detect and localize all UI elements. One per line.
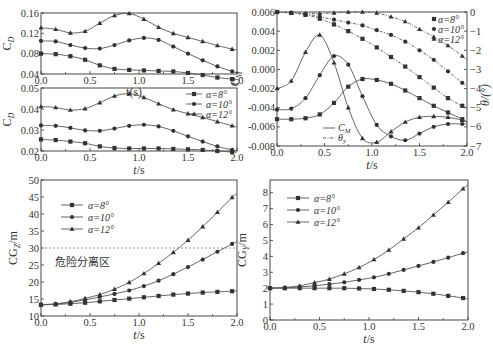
data-point-marker: [112, 298, 116, 302]
data-point-marker: [387, 288, 391, 292]
data-point-marker: [460, 53, 465, 57]
data-point-marker: [346, 20, 350, 24]
legend-label: α=10°: [314, 205, 340, 216]
data-point-marker: [432, 125, 436, 129]
y-axis-label: CGZ/m: [6, 230, 22, 264]
legend-label: α=12°: [88, 224, 114, 235]
y-right-tick-label: −3: [470, 64, 481, 75]
data-point-marker: [186, 71, 190, 75]
data-point-marker: [389, 134, 393, 138]
x-tick-label: 1.0: [365, 147, 378, 158]
data-point-marker: [431, 292, 435, 296]
data-point-marker: [186, 291, 190, 295]
y-right-tick-label: −1: [470, 26, 481, 37]
y-axis-label: CD: [0, 36, 16, 50]
y-tick-label: 0.02: [21, 146, 39, 157]
legend-marker-icon: [192, 92, 196, 96]
y-tick-label: 1: [263, 299, 268, 310]
data-point-marker: [54, 52, 58, 56]
y-tick-label: 7: [263, 203, 268, 214]
y-tick-label: -0.004: [248, 102, 276, 113]
data-point-marker: [387, 272, 391, 276]
y-tick-label: 3: [263, 267, 268, 278]
legend-label: α=8°: [314, 193, 335, 204]
data-point-marker: [289, 107, 293, 111]
data-point-marker: [446, 294, 450, 298]
data-point-marker: [389, 33, 393, 37]
data-point-marker: [446, 256, 450, 260]
data-point-marker: [275, 117, 279, 121]
y-tick-label: 0.05: [21, 83, 39, 94]
data-point-marker: [386, 247, 391, 251]
data-point-marker: [127, 68, 131, 72]
y-tick-label: 15: [29, 294, 40, 305]
data-point-marker: [142, 284, 146, 288]
chart-cd-bottom: 0.00.51.01.52.00.020.030.040.05CDt/sα=8°…: [0, 83, 244, 178]
data-point-marker: [346, 63, 350, 67]
data-point-marker: [303, 50, 308, 54]
x-tick-label: 1.0: [362, 321, 375, 332]
data-point-marker: [127, 280, 132, 284]
data-point-marker: [289, 117, 293, 121]
data-point-marker: [171, 272, 175, 276]
x-tick-label: 1.5: [412, 321, 425, 332]
x-tick-label: 0.5: [83, 317, 96, 328]
legend-marker-icon: [70, 215, 74, 219]
data-point-marker: [402, 289, 406, 293]
y-tick-label: 45: [29, 192, 40, 203]
data-point-marker: [432, 86, 436, 90]
legend-marker-icon: [432, 17, 436, 21]
x-tick-label: 1.5: [181, 75, 194, 86]
data-point-marker: [446, 122, 450, 126]
data-point-marker: [171, 147, 175, 151]
data-point-marker: [432, 104, 436, 108]
data-point-marker: [327, 282, 331, 286]
data-point-marker: [416, 290, 420, 294]
series-line: [270, 185, 468, 288]
legend-label: α=12°: [206, 109, 232, 120]
data-point-marker: [112, 43, 116, 47]
data-point-marker: [230, 242, 234, 246]
y-tick-label: 20: [29, 277, 40, 288]
data-point-marker: [201, 58, 205, 62]
x-tick-label: 1.0: [132, 317, 145, 328]
y-right-tick-label: −6: [470, 121, 481, 132]
data-point-marker: [372, 275, 376, 279]
data-point-marker: [417, 96, 421, 100]
x-tick-label: 2.0: [461, 321, 474, 332]
data-point-marker: [346, 105, 351, 109]
x-tick-label: 0.5: [83, 152, 96, 163]
data-point-marker: [98, 63, 102, 67]
data-point-marker: [375, 45, 379, 49]
data-point-marker: [446, 96, 450, 100]
data-point-marker: [127, 124, 131, 128]
data-point-marker: [127, 288, 131, 292]
data-point-marker: [357, 278, 361, 282]
data-point-marker: [332, 54, 336, 58]
y-tick-label: -0.002: [248, 83, 275, 94]
x-axis-label: t/s: [363, 332, 375, 346]
x-axis-label: t(s): [126, 85, 142, 99]
data-point-marker: [215, 144, 219, 148]
x-tick-label: 0.5: [83, 75, 96, 86]
data-point-marker: [54, 124, 58, 128]
data-point-marker: [389, 82, 393, 86]
x-tick-label: 2.0: [230, 317, 243, 328]
data-point-marker: [54, 39, 58, 43]
y-tick-label: 0.16: [21, 8, 39, 19]
data-point-marker: [372, 287, 376, 291]
data-point-marker: [142, 146, 146, 150]
data-point-marker: [215, 75, 219, 79]
y-tick-label: 0.04: [21, 104, 40, 115]
data-point-marker: [112, 146, 116, 150]
chart-cm-theta: 0.00.51.01.52.00.0060.0040.0020.000-0.00…: [228, 7, 492, 173]
data-point-marker: [403, 40, 407, 44]
data-point-marker: [230, 289, 234, 293]
data-point-marker: [201, 148, 205, 152]
data-point-marker: [432, 58, 436, 62]
data-point-marker: [417, 48, 421, 52]
data-point-marker: [39, 137, 43, 141]
y-axis-label: CM: [228, 70, 244, 86]
data-point-marker: [98, 46, 102, 50]
y-axis-label: CD: [0, 112, 16, 126]
